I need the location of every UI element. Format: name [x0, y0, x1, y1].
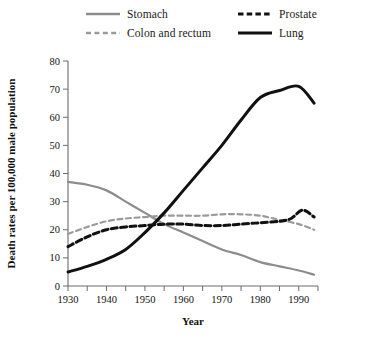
x-tick-label: 1980 — [250, 294, 271, 305]
y-tick-label: 20 — [50, 224, 61, 235]
y-tick-label: 80 — [50, 56, 61, 67]
y-tick-label: 50 — [50, 140, 61, 151]
x-tick-label: 1970 — [211, 294, 232, 305]
y-tick-label: 0 — [55, 281, 60, 292]
chart-plot: 0102030405060708019301940195019601970198… — [0, 0, 370, 338]
x-tick-label: 1960 — [173, 294, 194, 305]
series-group — [68, 86, 314, 275]
y-tick-label: 70 — [50, 84, 61, 95]
x-tick-label: 1950 — [134, 294, 155, 305]
axis-lines — [68, 61, 318, 286]
x-tick-label: 1990 — [288, 294, 309, 305]
y-tick-label: 60 — [50, 112, 61, 123]
y-tick-label: 10 — [50, 252, 61, 263]
y-axis-title: Death rates per 100,000 male population — [5, 79, 17, 269]
x-axis-title: Year — [182, 315, 204, 327]
x-tick-label: 1940 — [96, 294, 117, 305]
chart-figure: Stomach Colon and rectum Prostate Lung 0… — [0, 0, 370, 338]
y-tick-label: 40 — [50, 168, 61, 179]
axes-group: 0102030405060708019301940195019601970198… — [50, 56, 319, 305]
x-tick-label: 1930 — [58, 294, 79, 305]
series-line-lung — [68, 86, 314, 272]
y-tick-label: 30 — [50, 196, 61, 207]
